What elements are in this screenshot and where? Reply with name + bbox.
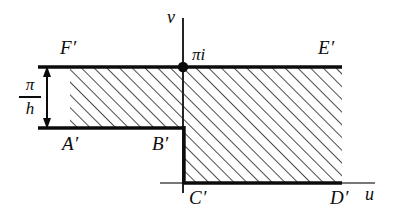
dimension-denominator: h: [17, 99, 43, 118]
label-point-B: B′: [152, 134, 169, 153]
label-dimension-pi-over-h: π h: [17, 76, 43, 118]
label-point-pi-i: πi: [192, 46, 205, 63]
label-point-E: E′: [318, 38, 335, 57]
point-pi-i-dot: [178, 62, 188, 72]
dimension-arrow: [43, 66, 51, 129]
dimension-numerator: π: [17, 76, 43, 95]
label-point-C: C′: [189, 188, 207, 207]
label-axis-v: v: [167, 8, 175, 26]
label-axis-u: u: [365, 185, 374, 203]
fraction-bar: [19, 96, 41, 98]
hatched-region: [60, 58, 352, 193]
label-point-D: D′: [330, 188, 349, 207]
label-point-A: A′: [62, 134, 79, 153]
label-point-F: F′: [60, 38, 77, 57]
